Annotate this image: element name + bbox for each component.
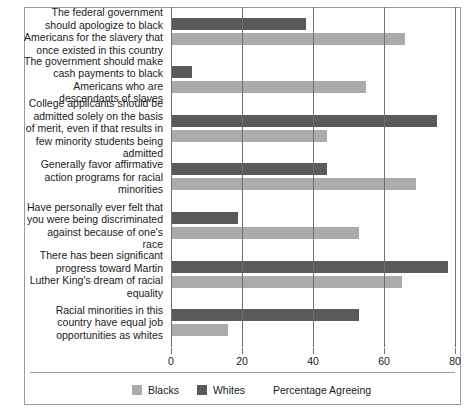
bar-blacks (171, 227, 359, 239)
bar-whites (171, 115, 437, 127)
tick-label: 60 (378, 355, 390, 367)
bar-pair (170, 298, 461, 347)
legend-item-whites: Whites (197, 384, 245, 396)
bar-group: Have personally ever felt that you were … (24, 201, 461, 250)
blacks-swatch-icon (132, 385, 142, 395)
bar-group: There has been significant progress towa… (24, 250, 461, 299)
bar-whites (171, 18, 306, 30)
tick-label: 40 (307, 355, 319, 367)
bar-blacks (171, 81, 366, 93)
bar-group-list: The federal government should apologize … (24, 7, 461, 347)
x-axis-ticks: 020406080 (171, 348, 455, 370)
bar-group: The federal government should apologize … (24, 7, 461, 56)
tick-mark (313, 348, 314, 354)
bar-whites (171, 163, 327, 175)
legend-divider (30, 372, 455, 373)
tick-mark (455, 348, 456, 354)
tick-label: 80 (449, 355, 461, 367)
tick-mark (171, 348, 172, 354)
chart-legend: Blacks Whites Percentage Agreeing (132, 384, 371, 396)
bar-blacks (171, 33, 405, 45)
bar-pair (170, 104, 461, 153)
tick-mark (242, 348, 243, 354)
legend-item-blacks: Blacks (132, 384, 179, 396)
tick-mark (384, 348, 385, 354)
category-label: Racial minorities in this country have e… (24, 304, 170, 341)
category-label: The federal government should apologize … (24, 6, 170, 56)
legend-label-whites: Whites (213, 384, 245, 396)
chart-figure: The federal government should apologize … (0, 0, 467, 415)
category-label: Have personally ever felt that you were … (24, 201, 170, 251)
bar-group: Generally favor affirmative action progr… (24, 153, 461, 202)
bar-blacks (171, 276, 402, 288)
bar-pair (170, 7, 461, 56)
legend-label-blacks: Blacks (148, 384, 179, 396)
bar-blacks (171, 178, 416, 190)
bar-pair (170, 250, 461, 299)
tick-label: 0 (168, 355, 174, 367)
bar-blacks (171, 324, 228, 336)
bar-pair (170, 56, 461, 105)
x-axis-title: Percentage Agreeing (273, 384, 371, 396)
bar-pair (170, 153, 461, 202)
bar-pair (170, 201, 461, 250)
category-label: There has been significant progress towa… (24, 249, 170, 299)
bar-whites (171, 66, 192, 78)
bar-whites (171, 261, 448, 273)
whites-swatch-icon (197, 385, 207, 395)
bar-group: College applicants should be admitted so… (24, 104, 461, 153)
category-label: Generally favor affirmative action progr… (24, 158, 170, 195)
bar-whites (171, 212, 238, 224)
category-label: College applicants should be admitted so… (24, 97, 170, 159)
bar-blacks (171, 130, 327, 142)
bar-group: Racial minorities in this country have e… (24, 298, 461, 347)
tick-label: 20 (236, 355, 248, 367)
plot-area: The federal government should apologize … (24, 7, 461, 405)
bar-whites (171, 309, 359, 321)
y-axis-line (171, 7, 172, 347)
